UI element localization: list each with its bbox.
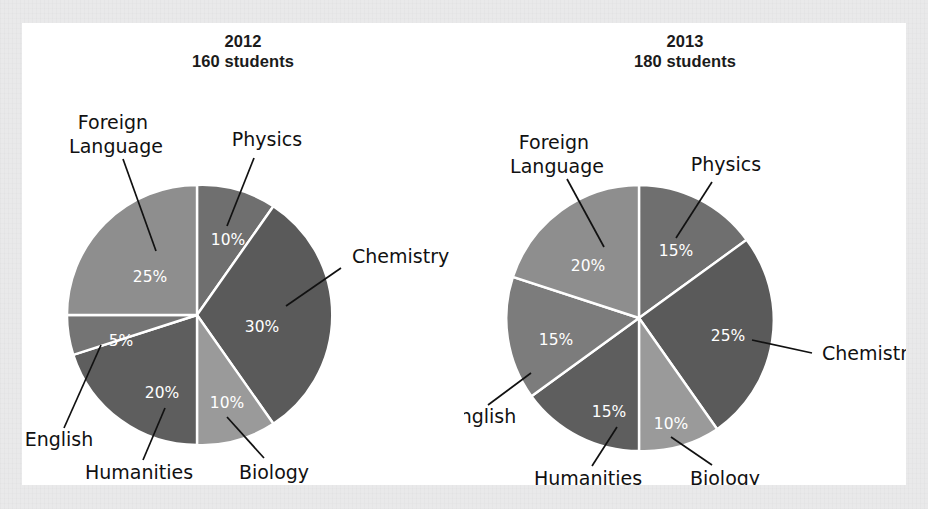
label-english: English [25, 428, 94, 450]
label-biology: Biology [239, 461, 309, 483]
label-foreign-language-line2: Language [69, 135, 163, 157]
label-foreign-language: Foreign Language [69, 111, 163, 157]
pie-area-2012: 10% 30% 10% 20% 5% 25% Foreign Language [22, 23, 464, 485]
slice-pct-foreign-language: 25% [133, 268, 167, 286]
slice-pct-humanities: 15% [592, 403, 626, 421]
slice-pct-foreign-language: 20% [571, 257, 605, 275]
label-biology: Biology [690, 467, 760, 485]
slice-pct-physics: 10% [211, 231, 245, 249]
label-foreign-language: Foreign Language [510, 131, 604, 177]
pie-chart-2012: 2012 160 students 10% 30% [22, 23, 464, 485]
label-foreign-language-line1: Foreign [519, 131, 589, 153]
slice-pct-english: 5% [109, 332, 134, 350]
label-foreign-language-line2: Language [510, 155, 604, 177]
label-chemistry: Chemistry [822, 342, 906, 364]
slice-pct-biology: 10% [210, 394, 244, 412]
slice-pct-chemistry: 25% [711, 327, 745, 345]
label-humanities: Humanities [534, 467, 642, 485]
slice-pct-english: 15% [539, 331, 573, 349]
label-english: English [464, 405, 516, 427]
slice-pct-chemistry: 30% [245, 318, 279, 336]
slice-pct-biology: 10% [654, 415, 688, 433]
slice-foreign-language[interactable] [67, 185, 197, 315]
slice-pct-humanities: 20% [145, 384, 179, 402]
label-physics: Physics [691, 153, 761, 175]
pie-chart-2013: 2013 180 students 15% 25% [464, 23, 906, 485]
label-foreign-language-line1: Foreign [78, 111, 148, 133]
leader-line-english [488, 373, 531, 405]
pie-area-2013: 15% 25% 10% 15% 15% 20% Foreign Language [464, 23, 906, 485]
slice-pct-physics: 15% [659, 242, 693, 260]
label-chemistry: Chemistry [352, 245, 449, 267]
label-physics: Physics [232, 128, 302, 150]
label-humanities: Humanities [85, 461, 193, 483]
figure-card: 2012 160 students 10% 30% [22, 23, 906, 485]
